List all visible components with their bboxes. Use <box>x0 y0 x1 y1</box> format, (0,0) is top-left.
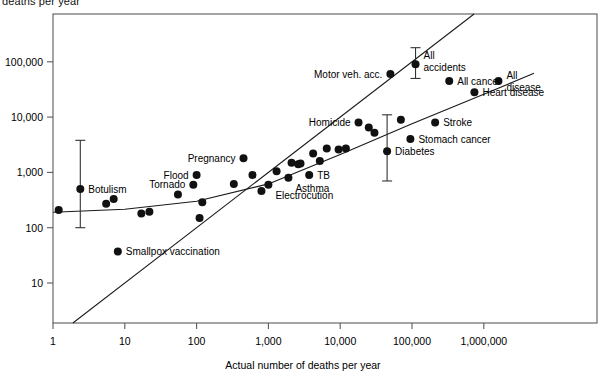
data-point-labeled <box>431 118 439 126</box>
data-point <box>196 214 204 222</box>
data-point-labeled <box>386 70 394 78</box>
y-tick-label: 10,000 <box>11 111 43 123</box>
data-point <box>248 171 256 179</box>
data-point <box>110 195 118 203</box>
y-tick-label: 100,000 <box>5 56 43 68</box>
x-tick-label: 1 <box>50 335 56 347</box>
y-tick-label: 10 <box>31 277 43 289</box>
point-label: TB <box>317 170 330 181</box>
data-point <box>102 200 110 208</box>
data-point-labeled <box>114 248 122 256</box>
x-tick-label: 1,000,000 <box>460 335 507 347</box>
point-label: Stomach cancer <box>418 134 491 145</box>
data-point <box>145 208 153 216</box>
data-point-labeled <box>412 60 420 68</box>
data-point-labeled <box>470 88 478 96</box>
data-point-labeled <box>383 147 391 155</box>
y-tick-label: 1,000 <box>17 166 43 178</box>
point-label: Motor veh. acc. <box>314 69 382 80</box>
x-tick-label: 100 <box>188 335 206 347</box>
data-point <box>316 157 324 165</box>
reference-lines-layer <box>53 14 534 323</box>
data-point-labeled <box>305 171 313 179</box>
data-point <box>174 190 182 198</box>
point-label: All cancer <box>457 76 502 87</box>
data-point-labeled <box>193 171 201 179</box>
data-point <box>288 159 296 167</box>
data-point-labeled <box>76 185 84 193</box>
data-point <box>230 180 238 188</box>
scatter-plot-svg: 101001,00010,000100,0001101001,00010,000… <box>0 0 606 375</box>
error-bar <box>75 140 85 227</box>
data-point <box>198 198 206 206</box>
axes-layer: 101001,00010,000100,0001101001,00010,000… <box>5 14 597 347</box>
data-point-labeled <box>445 77 453 85</box>
data-point-labeled <box>355 118 363 126</box>
data-point-labeled <box>264 181 272 189</box>
x-tick-label: 10,000 <box>324 335 356 347</box>
chart-figure: deaths per year 101001,00010,000100,0001… <box>0 0 606 375</box>
data-point-labeled <box>406 135 414 143</box>
point-label: accidents <box>424 62 466 73</box>
point-label: Stroke <box>443 117 472 128</box>
point-label: All <box>506 70 517 81</box>
data-point-labeled <box>284 174 292 182</box>
x-tick-label: 1,000 <box>255 335 281 347</box>
data-point <box>370 129 378 137</box>
point-label: disease <box>506 82 541 93</box>
data-point <box>397 116 405 124</box>
data-points-layer <box>55 48 503 256</box>
x-tick-label: 100,000 <box>393 335 431 347</box>
x-axis-title: Actual number of deaths per year <box>225 359 381 371</box>
point-label: Botulism <box>88 184 126 195</box>
point-label: All <box>424 50 435 61</box>
identity-reference-line <box>73 14 474 323</box>
point-label: Pregnancy <box>188 153 236 164</box>
point-label: Homicide <box>309 117 351 128</box>
data-point-labeled <box>240 154 248 162</box>
point-label: Asthma <box>295 183 329 194</box>
data-point <box>323 145 331 153</box>
data-point-labeled <box>189 181 197 189</box>
data-point <box>257 187 265 195</box>
x-tick-label: 10 <box>119 335 131 347</box>
point-label: Smallpox vaccination <box>126 246 220 257</box>
data-point <box>297 159 305 167</box>
data-point <box>273 167 281 175</box>
point-label: Diabetes <box>395 146 434 157</box>
data-point <box>342 145 350 153</box>
data-point <box>137 210 145 218</box>
point-label: Tornado <box>149 179 186 190</box>
y-tick-label: 100 <box>25 222 43 234</box>
data-point <box>335 145 343 153</box>
point-label: Flood <box>164 170 189 181</box>
data-point <box>309 149 317 157</box>
data-point <box>55 206 63 214</box>
